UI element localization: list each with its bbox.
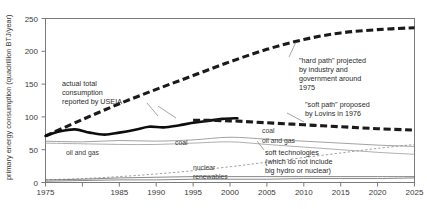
annotation-tech-line3: big hydro or nuclear) [265,166,331,175]
y-tick-label-250: 250 [25,15,39,24]
annotation-actual-line3: reported by USEIA [62,97,122,106]
x-tick-label-2020: 2020 [369,188,387,197]
series-label-oil-and-gas-right: oil and gas [262,137,295,145]
x-tick-label-2015: 2015 [332,188,350,197]
leader-soft-path [287,113,304,122]
series-line-oil-and-gas [46,142,415,154]
series-label-nuclear: nuclear [193,164,216,171]
annotation-soft-line2: by Lovins in 1976 [305,109,361,118]
annotation-actual-line1: actual total [62,79,97,88]
y-tick-label-0: 0 [34,179,39,188]
leader-actual-2 [158,106,176,118]
series-label-coal-right: coal [262,127,275,134]
x-axis-tick-labels: 1975 1985 1990 1995 2000 2005 2010 2015 … [37,188,424,197]
y-axis-ticks [42,19,46,183]
x-tick-label-1975: 1975 [37,188,55,197]
x-tick-label-1990: 1990 [147,188,165,197]
x-tick-label-2010: 2010 [295,188,313,197]
y-axis-title: primary energy consumption (quadrillion … [4,14,13,180]
annotation-tech-line2: (which do not include [265,157,333,166]
x-tick-label-2000: 2000 [221,188,239,197]
y-tick-label-50: 50 [29,146,38,155]
y-tick-label-100: 100 [25,113,39,122]
leader-hard-path [289,42,296,57]
annotation-hard-path: "hard path" projected by industry and go… [299,56,366,92]
annotation-actual-line2: consumption [62,88,103,97]
x-axis-ticks [46,183,415,187]
annotation-hard-line1: "hard path" projected [299,56,366,65]
leader-actual [147,103,158,116]
annotation-soft-path: "soft path" proposed by Lovins in 1976 [305,100,370,118]
annotation-hard-line4: 1975 [299,83,315,92]
annotation-actual-total: actual total consumption reported by USE… [62,79,122,106]
y-tick-label-200: 200 [25,47,39,56]
y-tick-label-150: 150 [25,80,39,89]
series-label-coal-left: coal [175,139,188,146]
x-tick-label-2005: 2005 [258,188,276,197]
series-label-oil-and-gas-left: oil and gas [66,149,99,157]
x-tick-label-1985: 1985 [110,188,128,197]
x-tick-label-1995: 1995 [184,188,202,197]
x-tick-label-2025: 2025 [406,188,424,197]
annotation-leader-lines [147,42,304,150]
series-line-soft-technologies [46,144,415,179]
annotation-soft-technologies: soft technologies (which do not include … [265,148,333,175]
y-axis-tick-labels: 250 200 150 100 50 0 [25,15,39,188]
chart-svg: 250 200 150 100 50 0 primary energy cons… [0,0,427,209]
series-label-renewables: renewables [193,173,228,180]
annotation-tech-line1: soft technologies [265,148,319,157]
annotation-hard-line2: by industry and [299,65,348,74]
annotation-hard-line3: government around [299,74,361,83]
chart-figure: 250 200 150 100 50 0 primary energy cons… [0,0,427,209]
annotation-soft-line1: "soft path" proposed [305,100,370,109]
